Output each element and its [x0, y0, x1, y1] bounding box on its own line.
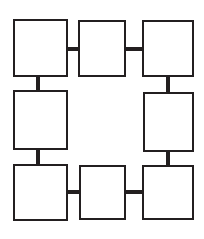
node-top-center[interactable]	[78, 20, 126, 77]
node-bottom-left[interactable]	[13, 164, 68, 221]
node-middle-left-label	[15, 92, 66, 148]
node-middle-right[interactable]	[143, 92, 194, 152]
node-bottom-center-label	[81, 167, 124, 218]
node-bottom-right-label	[144, 167, 192, 218]
node-bottom-left-label	[15, 166, 66, 219]
node-top-left-label	[15, 21, 66, 75]
diagram-canvas	[0, 0, 204, 239]
connector-bottom-center-to-bottom-right	[124, 190, 144, 194]
node-bottom-center[interactable]	[79, 165, 126, 220]
node-top-center-label	[80, 22, 124, 75]
connector-top-center-to-top-right	[124, 47, 144, 51]
node-bottom-right[interactable]	[142, 165, 194, 220]
node-top-left[interactable]	[13, 19, 68, 77]
node-middle-left[interactable]	[13, 90, 68, 150]
node-middle-right-label	[145, 94, 192, 150]
node-top-right-label	[144, 22, 192, 75]
node-top-right[interactable]	[142, 20, 194, 77]
